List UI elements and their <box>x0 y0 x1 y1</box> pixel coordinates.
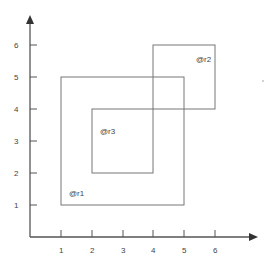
y-tick-labels: 1 2 3 4 5 6 <box>14 41 19 210</box>
x-tick-label: 6 <box>213 246 218 255</box>
x-tick-label: 4 <box>151 246 156 255</box>
y-tick-label: 2 <box>14 169 19 178</box>
rect-r3-label: @r3 <box>100 127 116 136</box>
y-ticks <box>30 45 37 205</box>
y-axis-arrow-icon <box>26 15 34 24</box>
rect-r1 <box>61 77 184 205</box>
x-ticks <box>61 230 215 237</box>
x-tick-label: 1 <box>59 246 64 255</box>
rectangles <box>61 45 215 205</box>
diagram-canvas: 1 2 3 4 5 6 1 2 3 4 5 6 @r1 @r2 @r3 <box>0 0 273 265</box>
y-tick-label: 4 <box>14 105 19 114</box>
x-tick-labels: 1 2 3 4 5 6 <box>59 246 218 255</box>
rect-r2-label: @r2 <box>196 55 212 64</box>
y-tick-label: 5 <box>14 73 19 82</box>
y-tick-label: 6 <box>14 41 19 50</box>
x-tick-label: 5 <box>182 246 187 255</box>
rect-r1-label: @r1 <box>69 189 85 198</box>
rect-r3 <box>92 109 153 173</box>
x-tick-label: 2 <box>90 246 95 255</box>
x-axis-arrow-icon <box>249 233 258 241</box>
y-tick-label: 1 <box>14 201 19 210</box>
stray-dot <box>262 80 264 82</box>
x-tick-label: 3 <box>121 246 126 255</box>
y-tick-label: 3 <box>14 137 19 146</box>
